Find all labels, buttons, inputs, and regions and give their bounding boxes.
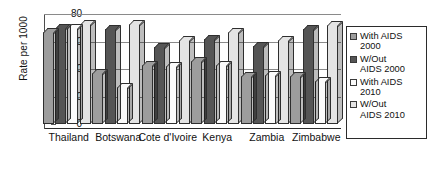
- legend-item-label: With AIDS 2000: [360, 31, 402, 52]
- bar: [191, 61, 202, 124]
- plot-floor-edge: [44, 124, 341, 129]
- legend-item-label: With AIDS 2010: [360, 77, 402, 98]
- legend-swatch-icon: [350, 79, 357, 86]
- legend-item[interactable]: W/Out AIDS 2000: [350, 54, 424, 75]
- legend-item-label: W/Out AIDS 2010: [360, 99, 405, 120]
- bar-group: [290, 14, 338, 124]
- legend-item[interactable]: With AIDS 2000: [350, 31, 424, 52]
- legend-item-label: W/Out AIDS 2000: [360, 54, 405, 75]
- bar-group: [43, 14, 91, 124]
- bar-group: [241, 14, 289, 124]
- bar: [43, 32, 54, 124]
- y-axis-title: Rate per 1000: [18, 0, 29, 99]
- legend-swatch-icon: [350, 56, 357, 63]
- bar-chart-figure: Rate per 1000 020406080 ThailandBotswana…: [0, 0, 429, 173]
- legend-swatch-icon: [350, 33, 357, 40]
- bar-group: [142, 14, 190, 124]
- bar-group: [191, 14, 239, 124]
- bar: [241, 76, 252, 124]
- bar: [290, 76, 301, 124]
- x-axis-tick-labels: ThailandBotswanaCote d'IvoireKenyaZambia…: [44, 131, 341, 171]
- plot-area: [44, 14, 341, 129]
- legend-item[interactable]: With AIDS 2010: [350, 77, 424, 98]
- bar: [142, 65, 153, 124]
- legend-swatch-icon: [350, 101, 357, 108]
- chart-legend: With AIDS 2000W/Out AIDS 2000With AIDS 2…: [346, 26, 427, 139]
- legend-item[interactable]: W/Out AIDS 2010: [350, 99, 424, 120]
- bar: [92, 73, 103, 124]
- x-tick-label: Zimbabwe: [286, 131, 348, 143]
- bar-group: [92, 14, 140, 124]
